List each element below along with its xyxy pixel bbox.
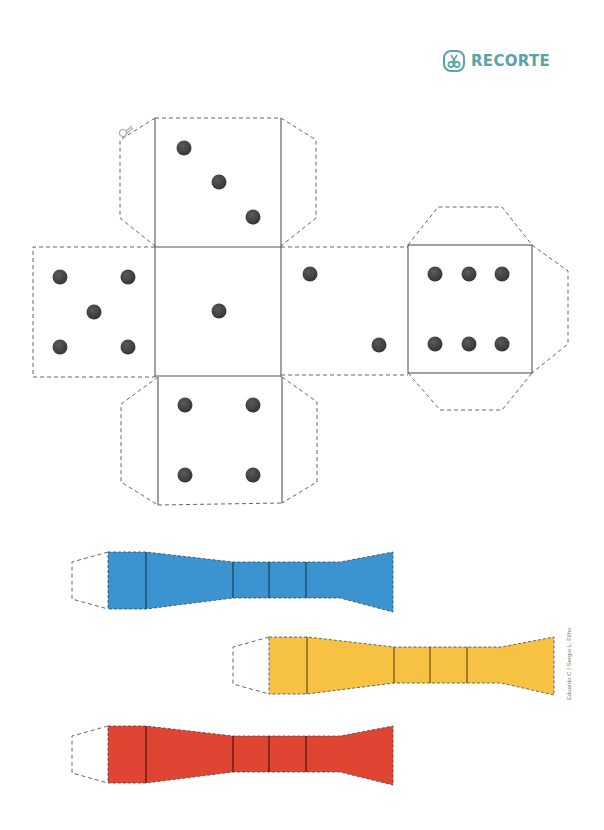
strip-yellow — [233, 637, 554, 695]
strip-red — [72, 726, 393, 785]
strip-blue — [72, 552, 393, 612]
image-credit: Eduardo C / Sergio L. Filho — [566, 628, 572, 700]
scissors-icon — [120, 126, 134, 137]
die-net — [33, 118, 568, 505]
cutout-sheet — [0, 0, 604, 830]
